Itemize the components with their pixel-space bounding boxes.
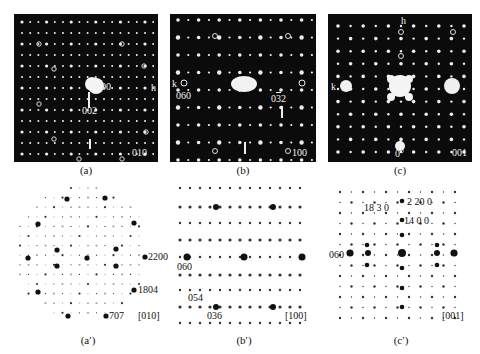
diffraction-pattern-c: h k 0° 001	[328, 14, 472, 162]
caption-a: (a)	[66, 164, 106, 176]
label-060: 060	[176, 91, 191, 101]
label-707: 707	[109, 311, 124, 321]
simulated-pattern-c-prime: 2 20 0 18 3 0 14 0 0 060 [001]	[320, 180, 480, 330]
caption-b: (b)	[223, 164, 263, 176]
spot-grid-a-prime	[0, 180, 160, 330]
label-060: 060	[177, 262, 192, 272]
label-002: 002	[82, 106, 97, 116]
spot-grid-b-prime	[160, 180, 320, 330]
caption-a-prime: (a′)	[68, 334, 108, 346]
label-1804: 1804	[138, 285, 158, 295]
axis-label-k: k	[331, 82, 336, 92]
zone-axis-100: [100]	[285, 311, 307, 321]
zone-axis-010: [010]	[138, 311, 160, 321]
spot-grid-b	[170, 14, 316, 162]
angle-label: 0°	[395, 149, 404, 159]
diffraction-pattern-b: k 060 032 100	[170, 14, 316, 162]
label-200: 200	[96, 82, 111, 92]
zone-axis-001: [001]	[442, 311, 464, 321]
spot-grid-c	[328, 14, 472, 162]
label-0-3bar-2: 032	[271, 94, 286, 104]
simulated-pattern-a-prime: 2200 1804 707 [010]	[0, 180, 160, 330]
axis-label-k: k	[172, 79, 177, 89]
zone-axis-010: 010	[132, 148, 147, 158]
spot-grid-a	[14, 14, 158, 162]
axis-label-h: h	[401, 16, 406, 26]
label-14-0-0: 14 0 0	[404, 216, 429, 226]
label-054: 054	[188, 293, 203, 303]
simulated-pattern-b-prime: 060 054 036 [100]	[160, 180, 320, 330]
diffraction-pattern-a: 200 002 h 010	[14, 14, 158, 162]
caption-c: (c)	[380, 164, 420, 176]
label-036: 036	[207, 311, 222, 321]
caption-c-prime: (c′)	[381, 334, 421, 346]
label-060: 060	[329, 250, 344, 260]
caption-b-prime: (b′)	[224, 334, 264, 346]
zone-axis-100: 100	[292, 148, 307, 158]
zone-axis-001: 001	[452, 148, 467, 158]
spot-grid-c-prime	[320, 180, 480, 330]
label-2-20-0: 2 20 0	[407, 197, 432, 207]
label-18-3-0: 18 3 0	[364, 203, 389, 213]
axis-label-h: h	[151, 83, 156, 93]
